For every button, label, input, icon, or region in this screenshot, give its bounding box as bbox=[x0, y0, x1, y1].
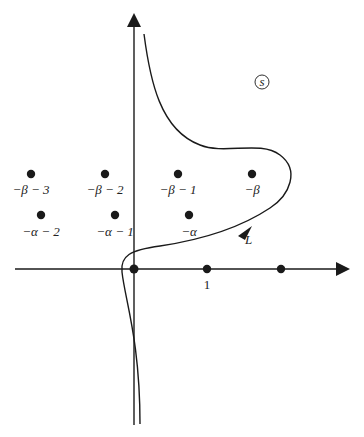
arrow-right-icon bbox=[336, 262, 350, 276]
point-beta-1 bbox=[174, 170, 182, 178]
svg-text:−β − 2: −β − 2 bbox=[86, 182, 124, 197]
point-alpha-2 bbox=[37, 211, 45, 219]
svg-text:−β − 1: −β − 1 bbox=[159, 182, 196, 197]
point-beta-3 bbox=[27, 170, 35, 178]
svg-text:1: 1 bbox=[204, 277, 211, 292]
svg-text:s: s bbox=[259, 74, 264, 89]
svg-text:−β − 3: −β − 3 bbox=[12, 182, 50, 197]
svg-text:−α − 2: −α − 2 bbox=[22, 224, 60, 239]
point-two bbox=[277, 265, 285, 273]
point-alpha-1 bbox=[111, 211, 119, 219]
beta-points: −β − 3 −β − 2 −β − 1 −β bbox=[12, 170, 260, 197]
svg-text:−α − 1: −α − 1 bbox=[96, 224, 133, 239]
svg-text:−α: −α bbox=[181, 224, 198, 239]
alpha-points: −α − 2 −α − 1 −α bbox=[22, 211, 198, 239]
diagram-canvas: s L −β − 3 −β − 2 −β − 1 −β −α − 2 −α − … bbox=[0, 0, 364, 437]
point-origin bbox=[130, 265, 139, 274]
svg-text:−β: −β bbox=[244, 182, 260, 197]
contour-L bbox=[122, 34, 291, 424]
arrow-up-icon bbox=[127, 13, 141, 27]
point-beta bbox=[248, 170, 256, 178]
point-one bbox=[203, 265, 211, 273]
point-alpha bbox=[185, 211, 193, 219]
region-label-s: s bbox=[255, 74, 269, 89]
horizontal-axis bbox=[15, 262, 350, 276]
contour-label: L bbox=[244, 232, 252, 247]
point-beta-2 bbox=[101, 170, 109, 178]
vertical-axis bbox=[127, 13, 141, 425]
